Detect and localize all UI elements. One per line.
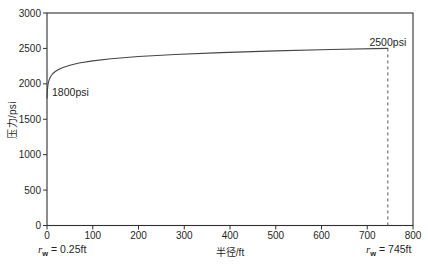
x-tick-label: 500 (267, 230, 284, 241)
y-tick-label: 1000 (19, 149, 42, 160)
note-value: = 745ft (376, 243, 411, 255)
x-axis-title: 半径/ft (216, 244, 244, 259)
x-tick-label: 700 (359, 230, 376, 241)
x-tick-label: 0 (44, 230, 50, 241)
x-tick-label: 600 (313, 230, 330, 241)
curve-annotation-1: 2500psi (369, 36, 406, 48)
curve-annotation-0: 1800psi (52, 86, 89, 98)
x-tick-label: 100 (84, 230, 101, 241)
outer-radius-note: rw = 745ft (366, 243, 411, 255)
y-tick-label: 2000 (19, 78, 42, 89)
y-tick-label: 3000 (19, 8, 42, 19)
x-tick-label: 300 (176, 230, 193, 241)
y-tick-label: 2500 (19, 43, 42, 54)
y-tick-label: 0 (35, 220, 41, 231)
wellbore-radius-note: rw = 0.25ft (38, 243, 86, 255)
note-value: = 0.25ft (48, 243, 86, 255)
x-tick-label: 400 (222, 230, 239, 241)
x-tick-label: 200 (130, 230, 147, 241)
y-tick-label: 1500 (19, 114, 42, 125)
pressure-curve (47, 48, 388, 98)
chart-canvas: 0500100015002000250030000100200300400500… (0, 0, 428, 266)
x-tick-label: 800 (405, 230, 422, 241)
y-axis-title: 压力/psi (4, 101, 19, 138)
y-tick-label: 500 (24, 185, 41, 196)
plot-frame (47, 13, 413, 226)
pressure-vs-radius-chart: 0500100015002000250030000100200300400500… (0, 0, 428, 266)
